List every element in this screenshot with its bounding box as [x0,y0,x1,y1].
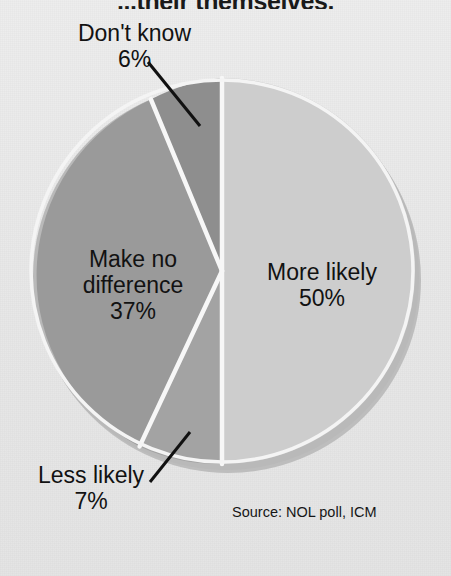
pie-label-make-no-difference: Make no difference 37% [58,246,208,324]
pie-label-dont-know-name: Don't know [78,20,191,46]
pie-label-make-no-difference-value: 37% [58,298,208,324]
chart-page: ...their themselves. [0,0,451,576]
pie-label-more-likely-name: More likely [267,259,377,285]
pie-label-make-no-difference-name-line1: Make no [89,246,177,272]
pie-label-less-likely: Less likely 7% [22,462,160,514]
pie-label-more-likely: More likely 50% [252,259,392,311]
pie-label-more-likely-value: 50% [252,285,392,311]
source-note: Source: NOL poll, ICM [232,504,377,520]
pie-label-less-likely-name: Less likely [38,462,144,488]
pie-label-dont-know-value: 6% [52,46,217,72]
pie-label-less-likely-value: 7% [22,488,160,514]
pie-label-dont-know: Don't know 6% [52,20,217,72]
pie-label-make-no-difference-name-line2: difference [58,272,208,298]
